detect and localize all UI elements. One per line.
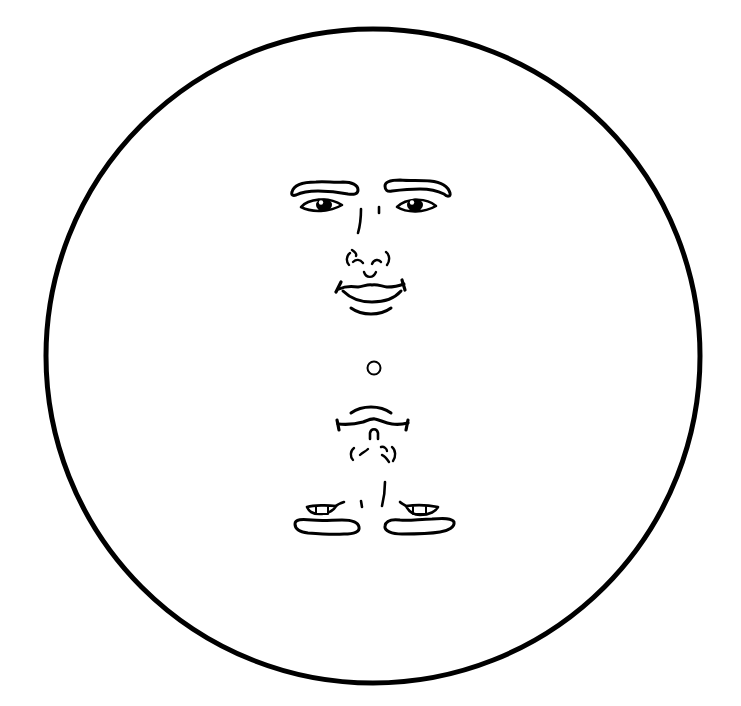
upright-right-eye-icon bbox=[397, 199, 436, 212]
inverted-left-eye-icon bbox=[307, 502, 344, 514]
upright-face bbox=[292, 180, 450, 314]
upright-mouth-icon bbox=[336, 280, 405, 302]
outer-circle bbox=[46, 29, 700, 683]
inverted-nose-bridge bbox=[382, 482, 385, 506]
center-ring-icon bbox=[368, 362, 381, 375]
upright-right-eyebrow-icon bbox=[385, 180, 450, 196]
illustration-canvas: Reversible face drawing Line drawing ins… bbox=[0, 0, 741, 706]
upright-nostrils-icon bbox=[347, 250, 389, 277]
face-illusion-drawing bbox=[0, 0, 741, 706]
inverted-right-eye-icon bbox=[400, 502, 438, 515]
inverted-right-eyebrow-icon bbox=[385, 518, 454, 534]
inverted-nose-tip bbox=[370, 429, 378, 439]
inverted-nose-tick bbox=[361, 501, 362, 507]
inverted-chin-line bbox=[351, 407, 391, 413]
upright-nose-bridge bbox=[358, 209, 361, 233]
upright-left-eye-icon bbox=[301, 199, 342, 212]
inverted-face bbox=[295, 407, 454, 534]
upright-chin-line bbox=[351, 308, 391, 314]
upright-left-eyebrow-icon bbox=[292, 182, 358, 196]
inverted-nostrils-icon bbox=[351, 447, 395, 462]
inverted-left-eyebrow-icon bbox=[295, 519, 359, 534]
